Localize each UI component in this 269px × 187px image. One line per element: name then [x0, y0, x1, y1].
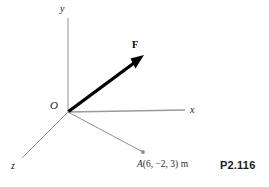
origin-label: O: [50, 100, 58, 111]
x-axis-label: x: [190, 105, 194, 115]
figure-container: y x z O F A(6, −2, 3) m P2.116: [0, 0, 269, 187]
problem-number-label: P2.116: [220, 160, 255, 171]
force-vector-arrowhead: [131, 55, 145, 69]
force-vector-label: F: [132, 40, 138, 50]
position-line-to-point-a: [68, 112, 142, 152]
y-axis-label: y: [60, 4, 64, 14]
force-vector-shaft: [69, 63, 135, 112]
z-axis-label: z: [11, 161, 15, 171]
point-a-marker: [141, 150, 145, 154]
point-a-label: A(6, −2, 3) m: [137, 160, 188, 170]
point-a-coordinates: (6, −2, 3): [143, 159, 178, 169]
x-axis-line: [68, 110, 185, 112]
z-axis-line: [22, 112, 68, 158]
point-a-units: m: [181, 159, 188, 169]
